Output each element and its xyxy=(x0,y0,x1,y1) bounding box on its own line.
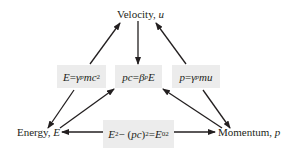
eq-term: E xyxy=(155,128,162,140)
arrow-energy-eq-to-energy xyxy=(48,90,74,128)
arrow-momentum-eq-to-velocity xyxy=(156,23,186,64)
eq-term: γ xyxy=(191,71,195,83)
node-energy-label: Energy, xyxy=(17,126,53,138)
eq-term: pc xyxy=(122,71,132,83)
equation-invariant: E2 − (pc)2 = E02 xyxy=(103,120,174,148)
eq-term: mu xyxy=(199,71,212,83)
eq-term: E xyxy=(148,71,155,83)
arrow-momentum-eq-to-momentum xyxy=(203,90,230,128)
node-velocity-label: Velocity, xyxy=(117,8,158,20)
eq-term: mc xyxy=(84,71,97,83)
eq-term: E xyxy=(108,128,115,140)
node-momentum-label: Momentum, xyxy=(218,126,275,138)
node-momentum: Momentum, p xyxy=(218,126,280,138)
equation-energy: E = γpmc2 xyxy=(57,65,106,88)
node-energy: Energy, E xyxy=(17,126,60,138)
eq-term: E xyxy=(63,71,70,83)
node-velocity-var: u xyxy=(158,8,164,20)
eq-term: pc xyxy=(131,128,141,140)
equation-momentum: p = γpmu xyxy=(172,65,220,88)
equation-pc: pc = βpE xyxy=(115,65,162,88)
node-velocity: Velocity, u xyxy=(117,8,164,20)
node-energy-var: E xyxy=(53,126,60,138)
node-momentum-var: p xyxy=(275,126,281,138)
eq-sign: − ( xyxy=(119,128,132,140)
arrow-energy-eq-to-velocity xyxy=(90,23,120,64)
